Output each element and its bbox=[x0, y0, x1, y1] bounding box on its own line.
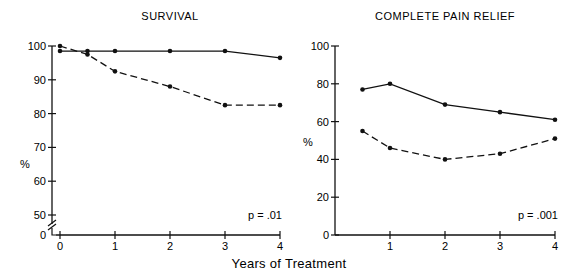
pain-relief-chart: COMPLETE PAIN RELIEF020406080100%1234p =… bbox=[303, 10, 558, 252]
y-tick-label: 0 bbox=[323, 229, 329, 241]
data-point bbox=[168, 84, 173, 89]
x-tick-label: 2 bbox=[442, 240, 448, 252]
y-tick-label: 100 bbox=[311, 40, 329, 52]
data-point bbox=[443, 102, 448, 107]
data-point bbox=[223, 49, 228, 54]
x-tick-label: 1 bbox=[112, 240, 118, 252]
data-point bbox=[360, 129, 365, 134]
y-tick-label: 100 bbox=[28, 40, 46, 52]
y-tick-label: 80 bbox=[317, 78, 329, 90]
data-point bbox=[553, 136, 558, 141]
x-tick-label: 3 bbox=[497, 240, 503, 252]
y-tick-label: 20 bbox=[317, 191, 329, 203]
data-point bbox=[388, 146, 393, 151]
x-tick-label: 4 bbox=[552, 240, 558, 252]
x-tick-label: 4 bbox=[277, 240, 283, 252]
x-tick-label: 1 bbox=[387, 240, 393, 252]
series-line-dashed bbox=[60, 46, 280, 105]
y-tick-label: 70 bbox=[34, 141, 46, 153]
y-axis-label: % bbox=[20, 158, 30, 170]
data-point bbox=[278, 103, 283, 108]
p-value-annotation: p = .001 bbox=[518, 209, 558, 221]
data-point bbox=[113, 49, 118, 54]
data-point bbox=[360, 87, 365, 92]
x-axis-label: Years of Treatment bbox=[232, 256, 347, 271]
y-tick-label: 40 bbox=[317, 153, 329, 165]
chart-title: SURVIVAL bbox=[141, 10, 198, 22]
y-tick-label: 80 bbox=[34, 108, 46, 120]
data-point bbox=[278, 56, 283, 61]
data-point bbox=[498, 151, 503, 156]
figure: SURVIVAL05060708090100%01234p = .01 COMP… bbox=[0, 0, 579, 277]
data-point bbox=[223, 103, 228, 108]
data-point bbox=[85, 52, 90, 57]
p-value-annotation: p = .01 bbox=[248, 209, 282, 221]
y-tick-label: 50 bbox=[34, 209, 46, 221]
y-tick-label: 90 bbox=[34, 74, 46, 86]
series-line-solid bbox=[363, 84, 556, 120]
data-point bbox=[58, 44, 63, 49]
data-point bbox=[498, 110, 503, 115]
y-axis-label: % bbox=[303, 136, 313, 148]
y-tick-label: 60 bbox=[317, 116, 329, 128]
chart-title: COMPLETE PAIN RELIEF bbox=[375, 10, 515, 22]
data-point bbox=[553, 117, 558, 122]
y-tick-label: 60 bbox=[34, 175, 46, 187]
y-tick-label: 0 bbox=[40, 229, 46, 241]
data-point bbox=[58, 49, 63, 54]
series-line-dashed bbox=[363, 131, 556, 159]
data-point bbox=[388, 82, 393, 87]
x-tick-label: 3 bbox=[222, 240, 228, 252]
x-tick-label: 0 bbox=[57, 240, 63, 252]
x-tick-label: 2 bbox=[167, 240, 173, 252]
data-point bbox=[113, 69, 118, 74]
survival-chart: SURVIVAL05060708090100%01234p = .01 bbox=[20, 10, 283, 252]
data-point bbox=[443, 157, 448, 162]
data-point bbox=[168, 49, 173, 54]
